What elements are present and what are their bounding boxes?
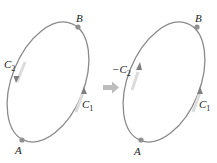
point-a-left [19, 137, 24, 142]
right-panel: A B −C2 C1 [107, 10, 217, 157]
left-panel: A B C2 C1 [0, 10, 105, 156]
label-a-left: A [14, 144, 22, 156]
label-neg-c2-right: −C2 [112, 63, 131, 78]
label-b-left: B [76, 12, 83, 24]
label-c1-left: C1 [82, 98, 93, 113]
c2-highlight-right [132, 72, 138, 90]
point-b-right [194, 24, 199, 29]
label-a-right: A [133, 145, 141, 157]
transform-arrow-icon [103, 82, 119, 94]
c1-arrow-icon-right [197, 87, 203, 94]
closed-curve-right [107, 10, 217, 154]
label-c1-right: C1 [199, 98, 210, 113]
label-c2-left: C2 [4, 58, 15, 73]
c1-arrow-icon-left [81, 87, 87, 94]
label-b-right: B [195, 12, 202, 24]
point-b-left [75, 24, 80, 29]
point-a-right [138, 137, 143, 142]
c2-arrow-icon-right [136, 62, 142, 70]
c2-highlight-left [17, 62, 25, 82]
line-integral-orientation-diagram: A B C2 C1 A B −C2 C1 [0, 0, 217, 163]
